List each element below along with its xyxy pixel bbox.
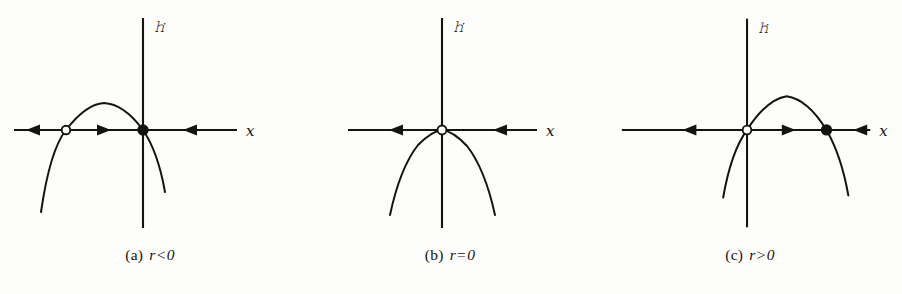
panel-b-caption: (b)r=0 xyxy=(300,246,600,264)
fixed-point-stable-filled xyxy=(822,125,832,135)
panel-b-caption-operator: = xyxy=(457,246,466,263)
fixed-point-stable-filled xyxy=(138,125,148,135)
flow-arrow-right-1 xyxy=(782,124,796,135)
panel-a-caption-label: (a) xyxy=(125,246,143,263)
parabola-curve xyxy=(41,103,165,212)
figure-canvas: 𝚑̇ 𝑥 (a)r<0 𝚑̇ 𝑥 xyxy=(0,0,902,294)
flow-arrow-left-1 xyxy=(389,125,403,136)
panel-b-caption-condition: r=0 xyxy=(450,246,475,263)
panel-b-caption-value: 0 xyxy=(467,246,475,263)
panel-a-caption-condition: r<0 xyxy=(149,246,174,263)
panel-b-caption-variable: r xyxy=(450,246,456,263)
panel-c-caption-value: 0 xyxy=(767,246,775,263)
flow-arrow-left-1 xyxy=(26,125,40,136)
panel-b-plot: 𝚑̇ 𝑥 xyxy=(300,0,600,245)
flow-arrow-right-1 xyxy=(97,125,111,136)
panel-c-plot: 𝚑̇ 𝑥 xyxy=(600,0,900,245)
y-axis-label: 𝚑̇ xyxy=(758,20,769,36)
panel-c-caption-label: (c) xyxy=(725,246,743,263)
fixed-point-unstable-open xyxy=(62,126,71,135)
flow-arrow-left-2 xyxy=(853,124,867,135)
y-axis-label: 𝚑̇ xyxy=(154,19,166,35)
flow-arrow-left-2 xyxy=(493,125,507,136)
x-axis-label: 𝑥 xyxy=(546,123,555,139)
panel-a-caption-operator: < xyxy=(157,246,166,263)
panel-c-caption-variable: r xyxy=(749,246,755,263)
flow-arrow-left-1 xyxy=(682,124,696,135)
panel-a-caption-variable: r xyxy=(149,246,155,263)
panel-b: 𝚑̇ 𝑥 (b)r=0 xyxy=(300,0,600,294)
flow-arrow-left-2 xyxy=(183,125,197,136)
parabola-curve xyxy=(723,96,848,197)
panel-c: 𝚑̇ 𝑥 (c)r>0 xyxy=(600,0,900,294)
fixed-point-half-stable-open xyxy=(438,126,447,135)
panel-c-caption: (c)r>0 xyxy=(600,246,900,264)
panel-a-caption-value: 0 xyxy=(167,246,175,263)
x-axis-label: 𝑥 xyxy=(246,123,255,139)
panel-a-caption: (a)r<0 xyxy=(0,246,300,264)
fixed-point-unstable-open xyxy=(743,126,752,135)
panel-c-caption-condition: r>0 xyxy=(749,246,774,263)
y-axis-label: 𝚑̇ xyxy=(453,19,465,35)
panel-a-plot: 𝚑̇ 𝑥 xyxy=(0,0,300,245)
panel-a: 𝚑̇ 𝑥 (a)r<0 xyxy=(0,0,300,294)
x-axis-label: 𝑥 xyxy=(879,123,888,139)
panel-c-caption-operator: > xyxy=(757,246,766,263)
panel-b-caption-label: (b) xyxy=(425,246,444,263)
